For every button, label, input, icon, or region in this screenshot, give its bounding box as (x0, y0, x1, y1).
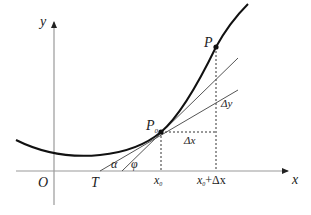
alpha-angle-label: α (111, 157, 118, 171)
phi-angle-label: φ (131, 157, 138, 171)
x-axis-label: x (291, 172, 299, 187)
x0-plus-dx-tick-label: x0+Δx (196, 173, 226, 187)
derivative-geometric-diagram: y x O T P0 P x0 x0+Δx Δx Δy α φ (0, 0, 311, 215)
tangent-line (100, 90, 238, 171)
point-p0 (158, 129, 163, 134)
point-p (213, 44, 218, 49)
secant-line (122, 58, 238, 171)
delta-x-label: Δx (183, 134, 195, 146)
delta-y-label: Δy (220, 97, 232, 109)
point-p0-label: P0 (145, 118, 159, 135)
y-axis-label: y (38, 14, 47, 29)
point-p-label: P (203, 35, 213, 50)
origin-label: O (38, 175, 48, 190)
x0-tick-label: x0 (153, 173, 162, 187)
point-t-label: T (91, 175, 100, 190)
function-curve (16, 4, 248, 156)
